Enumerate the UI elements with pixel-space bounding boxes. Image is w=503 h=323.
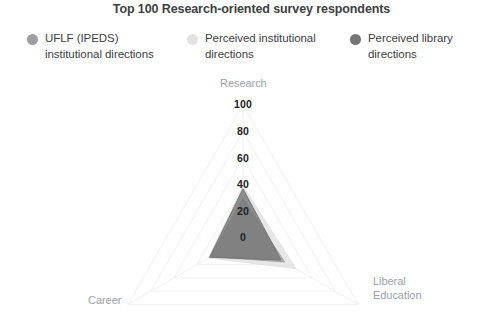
axis-label-research: Research [220, 77, 310, 91]
axis-label-career: Career [88, 294, 168, 308]
axis-label-liberal-line-1: Liberal [373, 275, 406, 287]
tick-label-40: 40 [220, 178, 266, 190]
tick-label-100: 100 [220, 98, 266, 110]
axis-label-career-text: Career [88, 294, 121, 306]
tick-label-20: 20 [220, 205, 266, 217]
tick-label-60: 60 [220, 152, 266, 164]
tick-label-0: 0 [220, 231, 266, 243]
axis-label-liberal-line-2: Education [373, 289, 421, 301]
tick-label-80: 80 [220, 125, 266, 137]
axis-label-research-text: Research [220, 77, 267, 89]
axis-label-liberal-education: Liberal Education [373, 275, 453, 302]
